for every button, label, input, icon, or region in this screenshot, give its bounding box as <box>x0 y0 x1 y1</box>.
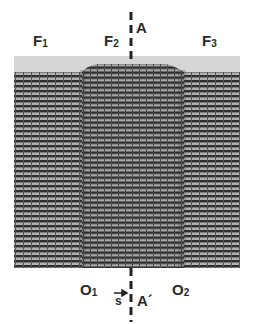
label-f3: F3 <box>202 33 217 49</box>
label-s-vector: s <box>115 295 122 307</box>
label-o2: O2 <box>172 282 189 298</box>
fringe-region-f1 <box>14 72 82 268</box>
fringe-region-f2 <box>82 64 184 268</box>
label-f1: F1 <box>33 33 48 49</box>
label-a-top: A <box>136 20 147 35</box>
boundary-o1 <box>80 70 86 268</box>
label-a-bottom: A´ <box>137 293 153 308</box>
boundary-o2 <box>178 70 186 268</box>
fringe-region-f3 <box>184 72 240 268</box>
label-o1: O1 <box>80 282 97 298</box>
label-f2: F2 <box>104 33 119 49</box>
